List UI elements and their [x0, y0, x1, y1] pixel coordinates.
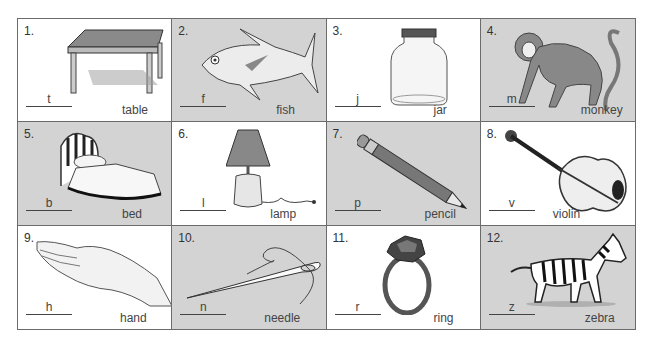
word-label: bed	[122, 207, 142, 221]
item-cell: 6. l lamp	[172, 122, 326, 225]
ring-icon	[377, 230, 437, 315]
word-label: hand	[120, 311, 147, 325]
letter-blank[interactable]: j	[335, 92, 381, 107]
item-cell: 1. t table	[18, 19, 172, 122]
item-cell: 9. h hand	[18, 226, 172, 329]
letter-blank[interactable]: f	[180, 92, 226, 107]
letter-blank[interactable]: z	[489, 300, 535, 315]
bed-icon	[56, 126, 166, 201]
letter-blank[interactable]: v	[489, 196, 535, 211]
item-number: 5.	[24, 127, 34, 141]
item-cell: 8. v violin	[481, 122, 635, 225]
item-number: 4.	[487, 24, 497, 38]
jar-icon	[389, 27, 449, 107]
item-cell: 3. j jar	[327, 19, 481, 122]
item-number: 2.	[178, 24, 188, 38]
letter-blank[interactable]: n	[180, 300, 226, 315]
item-number: 1.	[24, 24, 34, 38]
hand-icon	[32, 236, 172, 308]
item-cell: 2. f fish	[172, 19, 326, 122]
letter-blank[interactable]: p	[335, 196, 381, 211]
item-cell: 7. p pencil	[327, 122, 481, 225]
letter-blank[interactable]: r	[335, 300, 381, 315]
lamp-icon	[226, 126, 321, 211]
letter-blank[interactable]: h	[26, 300, 72, 315]
word-label: monkey	[581, 103, 623, 117]
word-label: fish	[276, 103, 295, 117]
word-label: needle	[264, 311, 300, 325]
vocabulary-grid: 1. t table 2. f fish 3. j j	[17, 18, 636, 330]
word-label: violin	[553, 207, 580, 221]
letter-blank[interactable]: b	[26, 196, 72, 211]
item-number: 11.	[333, 231, 349, 245]
letter-blank[interactable]: m	[489, 92, 535, 107]
item-number: 7.	[333, 127, 343, 141]
word-label: table	[122, 103, 148, 117]
word-label: zebra	[585, 311, 615, 325]
letter-blank[interactable]: t	[26, 92, 72, 107]
item-cell: 12. z zebra	[481, 226, 635, 329]
item-number: 3.	[333, 24, 343, 38]
item-number: 8.	[487, 127, 497, 141]
table-icon	[63, 25, 168, 95]
item-cell: 10. n needle	[172, 226, 326, 329]
item-cell: 5. b bed	[18, 122, 172, 225]
word-label: jar	[434, 103, 447, 117]
item-number: 6.	[178, 127, 188, 141]
item-cell: 11. r ring	[327, 226, 481, 329]
needle-icon	[182, 236, 322, 306]
letter-blank[interactable]: l	[180, 196, 226, 211]
word-label: ring	[434, 311, 454, 325]
word-label: pencil	[425, 207, 456, 221]
item-cell: 4. m monkey	[481, 19, 635, 122]
word-label: lamp	[270, 207, 296, 221]
